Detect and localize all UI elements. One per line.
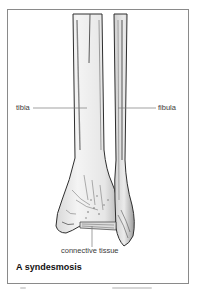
tibia-label: tibia [16,104,30,112]
connective-tissue-label: connective tissue [61,247,119,255]
fibula-bone [114,14,134,246]
connective-tissue-band [80,222,116,230]
tibia-bone [56,14,117,233]
cropped-text-fragment [0,287,199,292]
fibula-label: fibula [158,104,176,112]
figure-caption: A syndesmosis [16,263,82,272]
